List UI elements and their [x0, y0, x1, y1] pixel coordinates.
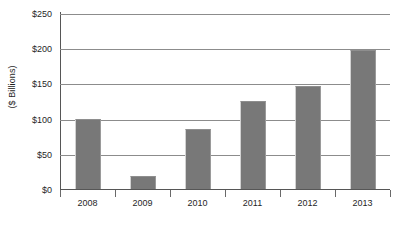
y-tick-label: $50	[18, 151, 52, 160]
bar[interactable]	[130, 176, 156, 189]
bar-slot	[115, 14, 170, 189]
x-tick-label: 2012	[280, 197, 335, 211]
bar-slot	[280, 14, 335, 189]
y-tick-label: $250	[18, 10, 52, 19]
bar[interactable]	[75, 119, 101, 189]
cut-off-caption	[0, 216, 403, 226]
plot-area	[60, 14, 390, 190]
bar-slot	[60, 14, 115, 189]
x-axis-tick	[335, 190, 336, 197]
x-axis-category-labels: 2008 2009 2010 2011 2012 2013	[60, 197, 390, 211]
x-axis-tick	[225, 190, 226, 197]
bar[interactable]	[185, 129, 211, 189]
bar[interactable]	[295, 86, 321, 189]
bar[interactable]	[240, 101, 266, 189]
x-axis-tick	[170, 190, 171, 197]
y-tick-label: $150	[18, 80, 52, 89]
bar[interactable]	[350, 50, 376, 189]
x-axis-tick	[390, 190, 391, 197]
bar-chart-figure: ($ Billions) $250 $200 $150 $100 $50 $0 …	[0, 0, 403, 226]
bar-slot	[225, 14, 280, 189]
x-axis-tick	[60, 190, 61, 197]
x-tick-label: 2010	[170, 197, 225, 211]
bar-slot	[335, 14, 390, 189]
y-tick-label: $0	[18, 186, 52, 195]
x-tick-label: 2009	[115, 197, 170, 211]
x-tick-label: 2013	[335, 197, 390, 211]
x-tick-label: 2008	[60, 197, 115, 211]
y-tick-label: $100	[18, 116, 52, 125]
x-axis-ticks	[60, 190, 390, 197]
x-tick-label: 2011	[225, 197, 280, 211]
x-axis-tick	[280, 190, 281, 197]
x-axis-tick	[115, 190, 116, 197]
bar-series	[60, 14, 390, 189]
y-axis-tick-labels: $250 $200 $150 $100 $50 $0	[14, 0, 52, 226]
bar-slot	[170, 14, 225, 189]
y-tick-label: $200	[18, 45, 52, 54]
